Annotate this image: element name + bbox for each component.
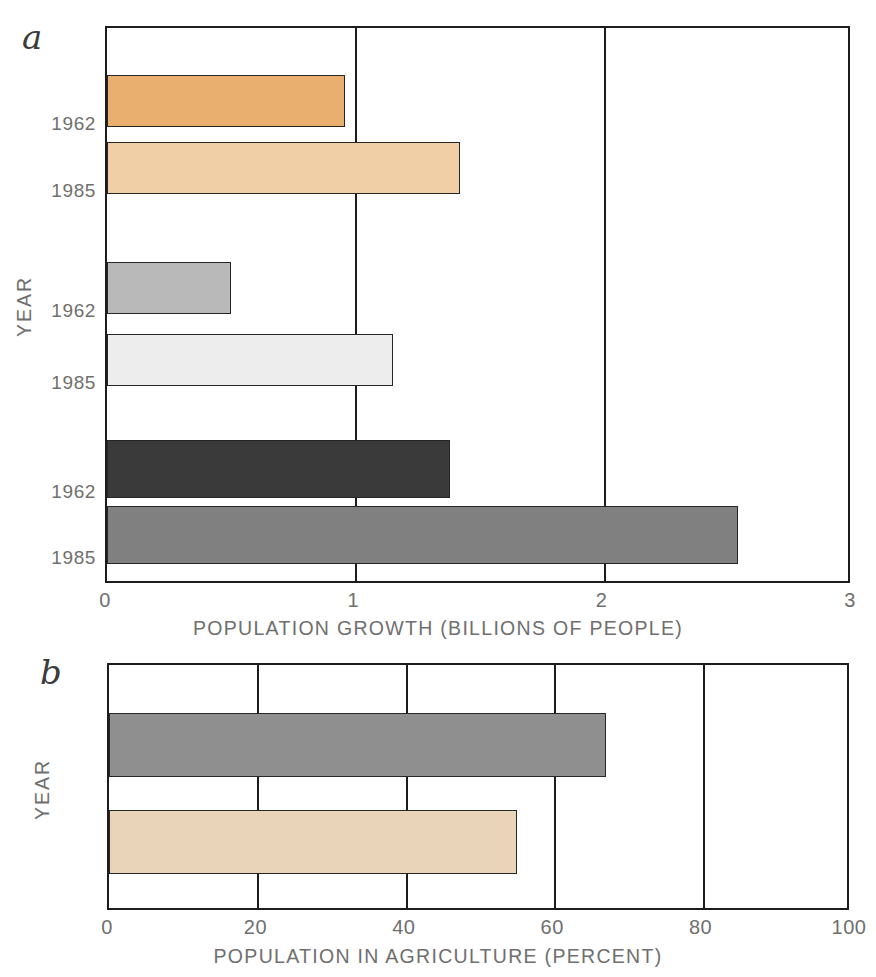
gridline-b-80 <box>703 665 705 908</box>
panel-b-plot-area <box>107 663 849 910</box>
x-tick-b-20: 20 <box>244 916 267 939</box>
y-tick-a-0: 1962 <box>0 113 96 135</box>
x-tick-b-60: 60 <box>541 916 564 939</box>
y-tick-a-5: 1985 <box>0 547 96 569</box>
gridline-b-60 <box>554 665 556 908</box>
gridline-a-2 <box>604 28 606 581</box>
x-tick-a-1: 1 <box>348 589 360 612</box>
figure-root: a 196219851962198519621985 0123 YEAR POP… <box>0 0 876 977</box>
bar-a-1985-5 <box>107 506 738 564</box>
x-tick-b-100: 100 <box>832 916 867 939</box>
x-tick-a-0: 0 <box>99 589 111 612</box>
x-tick-a-2: 2 <box>596 589 608 612</box>
x-tick-b-40: 40 <box>392 916 415 939</box>
bar-a-1985-3 <box>107 334 393 386</box>
gridline-a-1 <box>355 28 357 581</box>
panel-b-y-axis-title: YEAR <box>31 750 54 830</box>
bar-a-1962-2 <box>107 262 231 314</box>
y-tick-a-1: 1985 <box>0 180 96 202</box>
bar-a-1985-1 <box>107 142 460 194</box>
panel-a-plot-area <box>105 26 850 583</box>
panel-a-y-axis-title: YEAR <box>13 267 36 347</box>
bar-a-1962-4 <box>107 440 450 498</box>
bar-a-1962-0 <box>107 75 345 127</box>
x-tick-a-3: 3 <box>844 589 856 612</box>
panel-a-x-axis-title: POPULATION GROWTH (BILLIONS OF PEOPLE) <box>0 617 876 640</box>
x-tick-b-0: 0 <box>101 916 113 939</box>
panel-b-x-axis-title: POPULATION IN AGRICULTURE (PERCENT) <box>0 945 876 968</box>
x-tick-b-80: 80 <box>689 916 712 939</box>
bar-b-1962-0 <box>109 713 606 777</box>
y-tick-a-3: 1985 <box>0 372 96 394</box>
bar-b-1985-1 <box>109 810 517 874</box>
y-tick-a-4: 1962 <box>0 481 96 503</box>
